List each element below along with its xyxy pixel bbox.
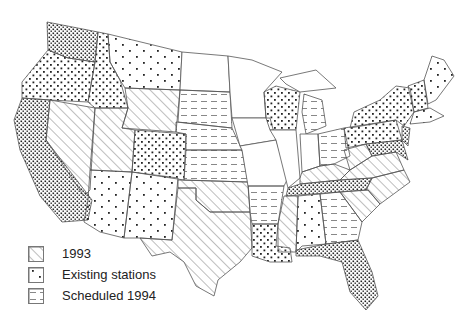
legend-item-1993: 1993	[28, 243, 156, 264]
map-legend: 1993 Existing stations Scheduled 1994	[28, 243, 156, 306]
state-michigan	[302, 94, 326, 134]
state-new-york	[350, 86, 414, 128]
state-maine	[424, 56, 454, 104]
state-wisconsin	[264, 86, 300, 130]
state-indiana	[300, 134, 320, 172]
dash-pattern-swatch	[28, 288, 44, 304]
state-kansas	[184, 150, 248, 182]
state-arizona	[84, 170, 132, 238]
state-florida	[296, 240, 378, 310]
legend-label: Existing stations	[62, 267, 156, 282]
legend-label: 1993	[62, 246, 91, 261]
state-colorado	[132, 130, 186, 180]
state-arkansas	[248, 186, 284, 224]
state-north-dakota	[180, 52, 230, 92]
legend-item-scheduled: Scheduled 1994	[28, 285, 156, 306]
legend-label: Scheduled 1994	[62, 288, 156, 303]
legend-item-existing: Existing stations	[28, 264, 156, 285]
state-south-dakota	[178, 90, 232, 128]
state-new-mexico	[124, 172, 178, 240]
hatch-pattern-swatch	[28, 246, 44, 262]
dots-pattern-swatch	[28, 267, 44, 283]
state-wyoming	[122, 88, 180, 132]
